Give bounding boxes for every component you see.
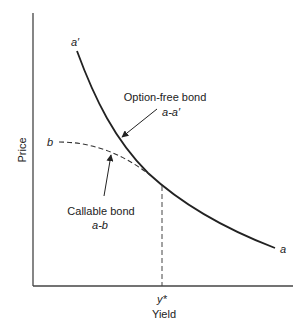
callable-sublabel: a-b [92, 219, 108, 231]
callable-arrow-icon [104, 155, 111, 196]
callable-curve [59, 142, 150, 175]
y-axis-label: Price [16, 137, 28, 162]
x-tick-y-star: y* [156, 293, 168, 305]
price-yield-diagram: a′ a b Option-free bond a-a′ Callable bo… [0, 0, 306, 328]
label-b: b [47, 136, 53, 148]
option-free-sublabel: a-a′ [162, 106, 181, 118]
option-free-label: Option-free bond [124, 91, 207, 103]
label-a-prime: a′ [71, 36, 80, 48]
label-a: a [280, 243, 286, 255]
callable-label: Callable bond [67, 205, 134, 217]
option-free-arrow-icon [122, 109, 157, 137]
x-axis-label: Yield [152, 308, 176, 320]
